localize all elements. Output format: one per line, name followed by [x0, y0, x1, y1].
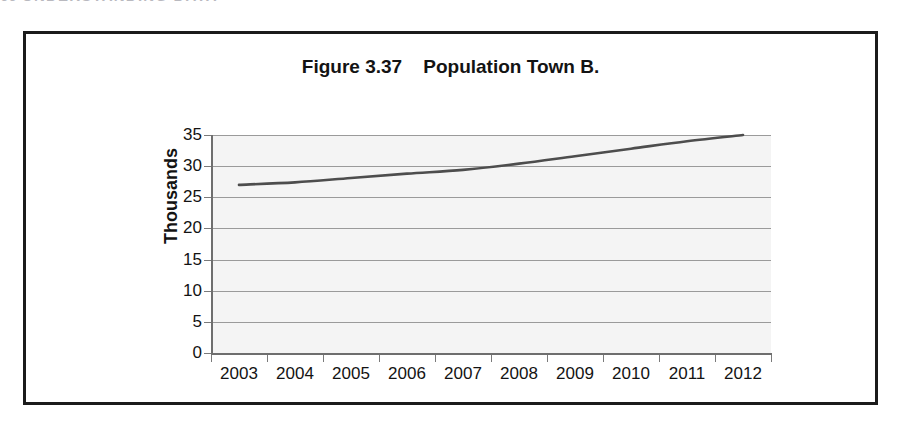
y-tick-label-35: 35: [170, 126, 202, 143]
x-tick-label-2010: 2010: [603, 365, 659, 384]
y-tick-label-5: 5: [170, 313, 202, 330]
x-tick-label-2003: 2003: [211, 365, 267, 384]
plot-area: [211, 135, 771, 353]
x-tick-9: [715, 355, 716, 362]
x-tick-7: [603, 355, 604, 362]
page-running-header: 66 UNDERSTANDING DATA: [0, 0, 910, 9]
x-tick-label-2009: 2009: [547, 365, 603, 384]
x-tick-8: [659, 355, 660, 362]
x-tick-10: [771, 355, 772, 362]
page-header-title: UNDERSTANDING DATA: [22, 0, 218, 4]
y-tick-label-20: 20: [170, 219, 202, 236]
y-tick-label-15: 15: [170, 251, 202, 268]
y-tick-label-25: 25: [170, 188, 202, 205]
figure-frame: Figure 3.37 Population Town B. Thousands…: [23, 31, 878, 405]
x-tick-4: [435, 355, 436, 362]
y-tick-15: [204, 260, 211, 261]
x-tick-label-2011: 2011: [659, 365, 715, 384]
y-tick-label-0: 0: [170, 344, 202, 361]
x-tick-label-2012: 2012: [715, 365, 771, 384]
x-tick-6: [547, 355, 548, 362]
y-tick-label-10: 10: [170, 282, 202, 299]
x-tick-5: [491, 355, 492, 362]
series-line-population-town-b: [211, 135, 771, 353]
y-tick-30: [204, 166, 211, 167]
x-tick-label-2004: 2004: [267, 365, 323, 384]
y-tick-label-30: 30: [170, 157, 202, 174]
x-tick-0: [211, 355, 212, 362]
y-tick-10: [204, 291, 211, 292]
y-tick-25: [204, 197, 211, 198]
x-tick-1: [267, 355, 268, 362]
line-chart: Thousands 05101520253035 200320042005200…: [26, 34, 875, 402]
y-tick-0: [204, 353, 211, 354]
y-tick-5: [204, 322, 211, 323]
y-tick-35: [204, 135, 211, 136]
y-tick-20: [204, 228, 211, 229]
x-tick-label-2006: 2006: [379, 365, 435, 384]
page-number: 66: [0, 0, 17, 4]
x-tick-2: [323, 355, 324, 362]
x-tick-label-2008: 2008: [491, 365, 547, 384]
x-tick-label-2007: 2007: [435, 365, 491, 384]
y-axis-line: [211, 135, 213, 354]
x-tick-label-2005: 2005: [323, 365, 379, 384]
x-tick-3: [379, 355, 380, 362]
y-axis-tick-labels: 05101520253035: [166, 34, 202, 402]
